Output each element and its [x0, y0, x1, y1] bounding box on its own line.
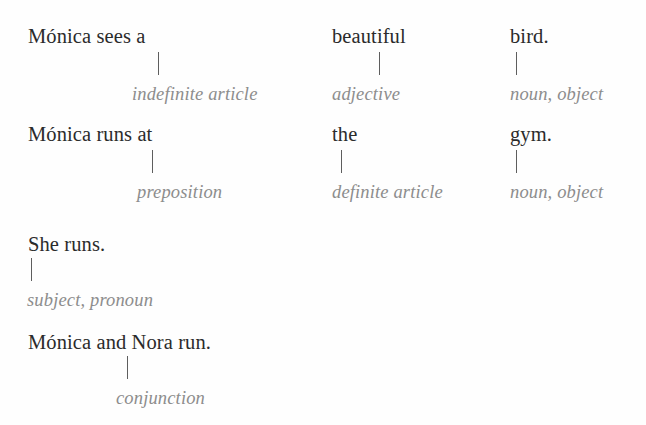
sentence-segment-2-2: the — [332, 124, 357, 145]
annotation-tick-2-1 — [152, 150, 153, 173]
annotation-tick-2-3 — [516, 150, 517, 173]
annotation-tick-2-2 — [341, 150, 342, 173]
sentence-segment-3-1: She runs. — [28, 234, 105, 255]
pos-label-2-3: noun, object — [510, 183, 603, 202]
grammar-annotation-figure: Mónica sees a beautiful bird. indefinite… — [0, 0, 646, 425]
sentence-segment-2-1: Mónica runs at — [28, 124, 152, 145]
pos-label-1-1: indefinite article — [132, 85, 258, 104]
pos-label-1-3: noun, object — [510, 85, 603, 104]
sentence-segment-1-1: Mónica sees a — [28, 26, 145, 47]
pos-label-4-1: conjunction — [116, 389, 205, 408]
sentence-segment-1-3: bird. — [510, 26, 549, 47]
annotation-tick-4-1 — [127, 356, 128, 379]
annotation-tick-1-1 — [158, 52, 159, 75]
pos-label-3-1: subject, pronoun — [27, 291, 153, 310]
sentence-segment-4-1: Mónica and Nora run. — [28, 332, 211, 353]
annotation-tick-3-1 — [31, 258, 32, 281]
pos-label-1-2: adjective — [332, 85, 400, 104]
sentence-segment-2-3: gym. — [510, 124, 552, 145]
annotation-tick-1-3 — [516, 52, 517, 75]
sentence-segment-1-2: beautiful — [332, 26, 406, 47]
pos-label-2-2: definite article — [332, 183, 443, 202]
pos-label-2-1: preposition — [137, 183, 222, 202]
annotation-tick-1-2 — [379, 52, 380, 75]
